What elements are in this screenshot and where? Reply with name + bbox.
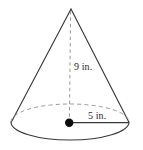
cone-figure: 9 in. 5 in. [0, 0, 143, 150]
base-center-dot [65, 119, 73, 127]
cone-drawing [0, 0, 143, 150]
radius-dimension-label: 5 in. [88, 110, 106, 121]
cone-left-slant-edge [11, 9, 71, 122]
height-dimension-label: 9 in. [74, 61, 92, 72]
